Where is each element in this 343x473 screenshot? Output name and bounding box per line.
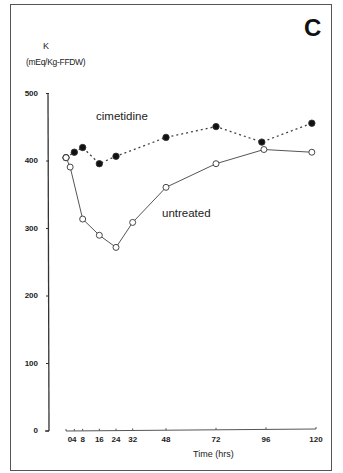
data-point-untreated (113, 244, 119, 250)
series-line-cimetidine (66, 123, 312, 164)
data-point-untreated (63, 155, 69, 161)
data-point-cimetidine (113, 153, 119, 159)
data-point-untreated (96, 232, 102, 238)
plot-area (0, 0, 343, 473)
data-point-untreated (67, 164, 73, 170)
data-point-untreated (80, 216, 86, 222)
data-point-cimetidine (79, 144, 85, 150)
data-point-cimetidine (96, 161, 102, 167)
data-point-untreated (309, 149, 315, 155)
x-axis-line (66, 429, 316, 431)
data-point-untreated (130, 219, 136, 225)
data-point-cimetidine (213, 123, 219, 129)
data-point-cimetidine (259, 139, 265, 145)
data-point-cimetidine (163, 134, 169, 140)
data-point-untreated (213, 161, 219, 167)
data-point-untreated (261, 147, 267, 153)
data-point-cimetidine (309, 120, 315, 126)
data-point-untreated (163, 184, 169, 190)
data-point-cimetidine (71, 149, 77, 155)
y-axis-line (48, 94, 49, 432)
